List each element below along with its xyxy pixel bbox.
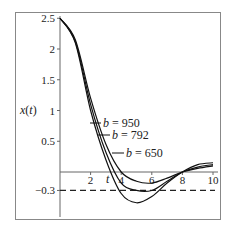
y-tick-label: 1: [50, 105, 56, 117]
y-tick-label: 2: [50, 43, 56, 55]
y-tick-label: 2.5: [41, 12, 55, 24]
axes: 2468102.521.510.5−0.3: [35, 12, 219, 217]
y-tick-label: 0.5: [41, 135, 55, 147]
series-label: b = 792: [112, 128, 149, 142]
x-tick-label: 10: [208, 174, 220, 186]
chart: 2468102.521.510.5−0.3 b = 950b = 792b = …: [0, 0, 233, 232]
y-tick-label: −0.3: [35, 184, 55, 196]
series-label: b = 650: [126, 146, 163, 160]
curve-b950: [60, 18, 213, 203]
y-tick-label: 1.5: [41, 74, 55, 86]
x-tick-label: 8: [180, 174, 186, 186]
x-tick-label: 2: [88, 174, 94, 186]
x-axis-label: t: [106, 172, 110, 186]
curves: [60, 18, 213, 203]
y-axis-label: x(t): [19, 103, 37, 117]
curve-b792: [60, 18, 213, 191]
x-tick-label: 6: [149, 174, 155, 186]
